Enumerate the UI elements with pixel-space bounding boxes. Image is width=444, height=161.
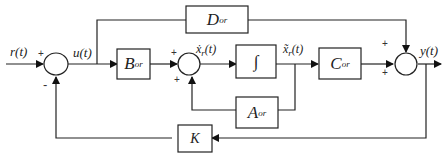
sum1-plus-sign: + (38, 49, 44, 59)
block-C-label: C (330, 54, 341, 74)
sum3-plus-bottom-sign: + (382, 68, 388, 78)
block-integrator: ∫ (236, 45, 276, 78)
x-arg: (t) (292, 42, 303, 56)
block-B-sub: or (135, 59, 143, 69)
signal-r-label: r(t) (10, 45, 27, 58)
block-A-sub: or (258, 108, 266, 118)
sum2-plus-bottom-sign: + (174, 75, 180, 85)
block-C: Cor (319, 48, 361, 79)
signal-x-label: x̃r(t) (283, 43, 303, 58)
block-A-label: A (248, 103, 258, 123)
block-D: Dor (186, 6, 248, 33)
signal-xdot-label: ẋr(t) (196, 43, 216, 58)
block-K-label: K (190, 131, 199, 147)
block-D-label: D (207, 10, 219, 30)
integrator-symbol: ∫ (254, 52, 259, 72)
sum-junction-output (395, 53, 417, 75)
block-K: K (178, 125, 212, 152)
block-D-sub: or (219, 15, 227, 25)
sum2-plus-top-sign: + (171, 48, 177, 58)
xdot-arg: (t) (205, 42, 216, 56)
block-C-sub: or (342, 59, 350, 69)
sum-junction-input (44, 53, 68, 75)
signal-y-label: y(t) (420, 44, 438, 57)
block-B: Bor (117, 49, 150, 79)
sum3-plus-top-sign: + (382, 39, 388, 49)
signal-u-label: u(t) (73, 46, 92, 59)
block-A: Aor (236, 97, 278, 128)
sum1-minus-sign: - (43, 78, 47, 91)
block-B-label: B (124, 54, 134, 74)
